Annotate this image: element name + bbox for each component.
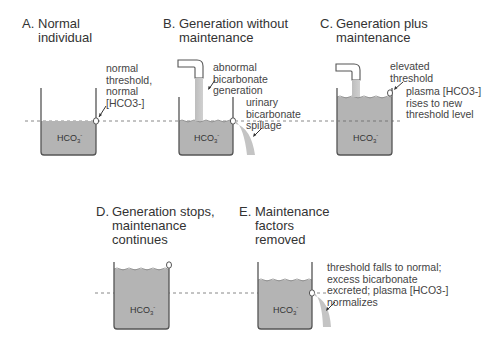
panel-b-title: B.Generation withoutmaintenance — [163, 17, 288, 45]
panel-a-title: A.Normalindividual — [22, 17, 92, 45]
panel-c-title: C.Generation plusmaintenance — [320, 17, 428, 45]
threshold-valve-icon — [93, 118, 98, 124]
threshold-valve-icon — [167, 262, 172, 268]
panel-e-title: E.Maintenancefactorsremoved — [239, 205, 329, 247]
generation-stream — [352, 80, 360, 97]
beaker-d — [114, 262, 172, 329]
beaker-a — [41, 88, 106, 155]
threshold-valve-icon — [230, 118, 235, 124]
generation-stream — [195, 78, 203, 121]
faucet-icon — [178, 60, 203, 78]
threshold-valve-icon — [388, 90, 393, 96]
annotation-normal-threshold: normal threshold, normal [HCO3-] — [106, 63, 152, 109]
annotation-plasma-rises: plasma [HCO3-] rises to new threshold le… — [406, 86, 481, 121]
annotation-elevated-threshold: elevated threshold — [390, 61, 433, 84]
faucet-icon — [336, 64, 360, 80]
annotation-abnormal-generation: abnormal bicarbonate generation — [213, 62, 268, 97]
annotation-urinary-spillage: urinary bicarbonate spillage — [246, 97, 301, 132]
threshold-valve-icon — [309, 290, 314, 296]
panel-d-title: D.Generation stops,maintenancecontinues — [96, 205, 215, 247]
beaker-e — [258, 262, 335, 329]
annotation-threshold-falls: threshold falls to normal; excess bicarb… — [327, 262, 448, 308]
